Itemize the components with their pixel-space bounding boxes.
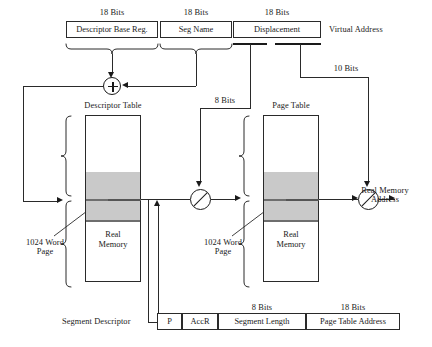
- output-label-line2: Address: [371, 195, 399, 204]
- descriptor-page-callout-line1: 1024 Word: [26, 238, 64, 247]
- page-table-memory-line2: Memory: [277, 240, 306, 249]
- page-table-page-band-upper: [264, 172, 318, 202]
- wire-left-rail-down: [23, 86, 24, 202]
- descriptor-table-row-separator-lower: [86, 220, 140, 222]
- wire-descriptor-entry-to-bottom-row: [148, 199, 149, 311]
- brace-descriptor-base-reg: [66, 44, 158, 54]
- descriptor-cell-access-rights[interactable]: AccR: [182, 313, 218, 330]
- bits-label-segment-index: 8 Bits: [215, 96, 235, 105]
- page-table-selected-entry: [286, 199, 319, 201]
- concat-operator-1: [190, 189, 211, 210]
- wire-row-label-elbow: [148, 311, 149, 322]
- bits-label-displacement: 18 Bits: [265, 8, 290, 17]
- descriptor-table-page-band-upper: [86, 172, 140, 202]
- segment-descriptor-row-label: Segment Descriptor: [62, 317, 131, 326]
- wire-seg-name-down: [196, 54, 197, 86]
- wire-displacement-page-offset-down: [300, 44, 301, 77]
- bits-label-segment-length: 8 Bits: [252, 303, 272, 312]
- wire-adder-to-left-rail: [23, 86, 103, 87]
- bits-label-page-table-address: 18 Bits: [341, 303, 366, 312]
- arrowhead-seg-name-to-adder: [122, 82, 128, 88]
- bits-label-seg-name: 18 Bits: [184, 8, 209, 17]
- page-table-page-callout-line2: Page: [215, 247, 232, 256]
- field-descriptor-base-reg[interactable]: Descriptor Base Reg.: [66, 21, 158, 38]
- descriptor-table-memory-label: Real Memory: [86, 230, 140, 250]
- descriptor-page-callout: 1024 Word Page: [8, 238, 82, 257]
- wire-seg-name-to-adder: [128, 86, 196, 87]
- page-table-page-callout: 1024 Word Page: [186, 238, 260, 257]
- page-table-title: Page Table: [272, 101, 310, 110]
- wire-concat1-to-page-table: [211, 199, 236, 200]
- wire-seg-index-left: [201, 108, 251, 109]
- wire-seg-index-to-concat1: [200, 108, 201, 181]
- wire-row-label-to-cells: [148, 322, 157, 323]
- descriptor-cell-presence-bit[interactable]: P: [157, 313, 182, 330]
- wire-page-offset-right: [300, 77, 368, 78]
- descriptor-table-title: Descriptor Table: [84, 101, 141, 110]
- descriptor-cell-page-table-address[interactable]: Page Table Address: [306, 313, 400, 330]
- bits-label-descriptor-base-reg: 18 Bits: [100, 8, 125, 17]
- page-table-page-band-lower: [264, 202, 318, 220]
- bits-label-page-offset: 10 Bits: [334, 64, 359, 73]
- page-table-page-callout-line1: 1024 Word: [204, 238, 242, 247]
- brace-seg-name: [160, 44, 232, 54]
- wire-page-table-address-up: [158, 206, 159, 313]
- descriptor-page-callout-line2: Page: [37, 247, 54, 256]
- arrowhead-page-table-address-up: [154, 200, 160, 206]
- descriptor-memory-line1: Real: [105, 230, 120, 239]
- brace-descriptor-table-upper: [61, 116, 71, 196]
- field-seg-name[interactable]: Seg Name: [160, 21, 232, 38]
- descriptor-cell-segment-length[interactable]: Segment Length: [218, 313, 306, 330]
- brace-page-table-upper: [239, 116, 249, 196]
- arrowhead-seg-index-to-concat1: [196, 181, 202, 187]
- concat-1-slash: [193, 192, 207, 206]
- output-label-line1: Real Memory: [361, 186, 408, 195]
- diagram-canvas: 18 Bits 18 Bits 18 Bits Descriptor Base …: [0, 0, 432, 347]
- wire-page-offset-to-concat2: [368, 77, 369, 182]
- wire-displacement-seg-index-down: [250, 44, 251, 109]
- page-table-row-separator-lower: [264, 220, 318, 222]
- adder-operator: [103, 77, 121, 95]
- field-displacement[interactable]: Displacement: [233, 21, 321, 38]
- descriptor-table-selected-entry: [108, 199, 141, 201]
- virtual-address-label: Virtual Address: [329, 25, 383, 34]
- descriptor-table-page-band-lower: [86, 202, 140, 220]
- descriptor-memory-line2: Memory: [99, 240, 128, 249]
- wire-base-reg-to-adder: [112, 54, 113, 73]
- page-table-memory-label: Real Memory: [264, 230, 318, 250]
- wire-left-rail-to-descriptor-table: [23, 201, 58, 202]
- real-memory-address-label: Real Memory Address: [339, 186, 431, 205]
- page-table-memory-line1: Real: [283, 230, 298, 239]
- arrowhead-into-descriptor-table: [57, 197, 63, 203]
- displacement-split-marker-right: [275, 43, 321, 45]
- arrowhead-into-page-table: [235, 195, 241, 201]
- adder-plus-vertical: [112, 82, 113, 92]
